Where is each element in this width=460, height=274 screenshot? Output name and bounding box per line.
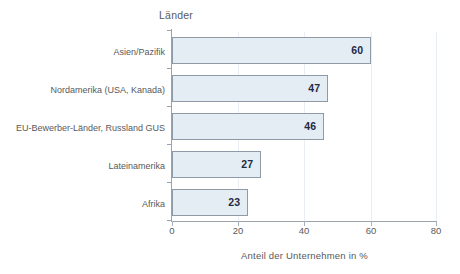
y-axis-tick bbox=[167, 106, 172, 107]
bar-eu-bewerber-laender[interactable]: 46 bbox=[172, 113, 324, 140]
x-tick-label-80: 80 bbox=[431, 226, 442, 236]
bar-value: 47 bbox=[308, 83, 327, 94]
category-label-nordamerika: Nordamerika (USA, Kanada) bbox=[50, 86, 165, 95]
y-axis-tick bbox=[167, 30, 172, 31]
category-label-afrika: Afrika bbox=[142, 200, 165, 209]
chart-title: Länder bbox=[0, 9, 352, 21]
category-label-asien-pazifik: Asien/Pazifik bbox=[113, 48, 165, 57]
x-tick-label-60: 60 bbox=[366, 226, 377, 236]
bar-lateinamerika[interactable]: 27 bbox=[172, 151, 261, 178]
category-label-eu-bewerber-laender: EU-Bewerber-Länder, Russland GUS bbox=[16, 124, 165, 133]
bar-afrika[interactable]: 23 bbox=[172, 189, 248, 216]
bar-chart: Länder 60 47 46 27 23 bbox=[0, 0, 460, 274]
bar-value: 23 bbox=[228, 197, 247, 208]
plot-area: 60 47 46 27 23 bbox=[172, 32, 437, 221]
x-axis-title: Anteil der Unternehmen in % bbox=[172, 250, 437, 261]
category-label-lateinamerika: Lateinamerika bbox=[108, 162, 165, 171]
x-tick-label-40: 40 bbox=[299, 226, 310, 236]
bar-value: 46 bbox=[304, 121, 323, 132]
gridline-60 bbox=[371, 32, 372, 221]
y-axis-tick bbox=[167, 68, 172, 69]
y-axis-tick bbox=[167, 144, 172, 145]
bar-asien-pazifik[interactable]: 60 bbox=[172, 37, 371, 64]
gridline-80 bbox=[436, 32, 437, 221]
x-tick-label-0: 0 bbox=[169, 226, 174, 236]
bar-value: 27 bbox=[241, 159, 260, 170]
y-axis-tick bbox=[167, 182, 172, 183]
bar-nordamerika[interactable]: 47 bbox=[172, 75, 328, 102]
bar-value: 60 bbox=[351, 45, 370, 56]
x-tick-label-20: 20 bbox=[233, 226, 244, 236]
